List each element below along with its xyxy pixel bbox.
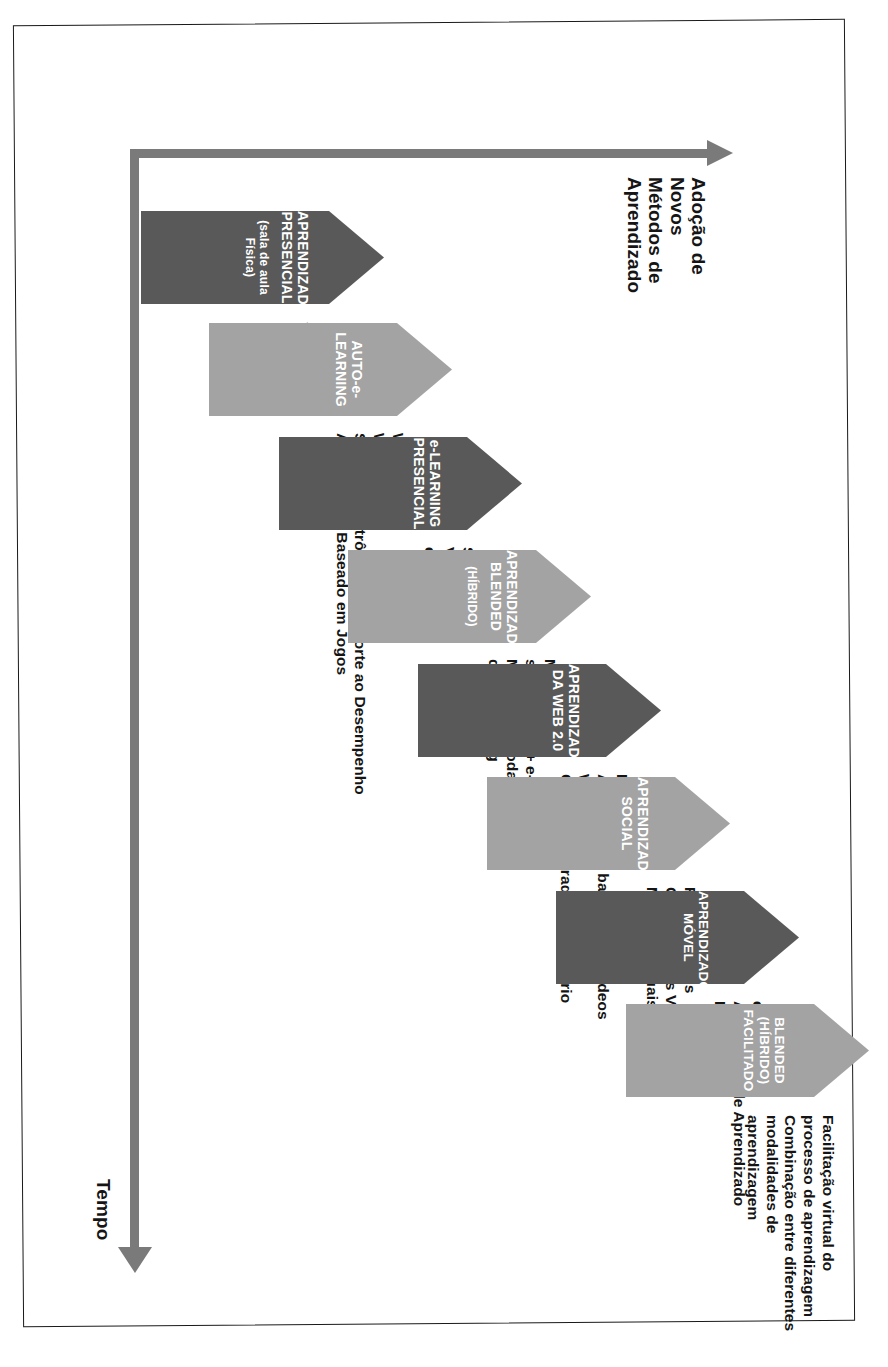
chart-stage: Tempo Adoção de Novos Métodos de Aprendi… xyxy=(29,29,859,1339)
stage-arrow-aprendizado-blended-hibrido[interactable]: APRENDIZADO BLENDED (HÍBRIDO) xyxy=(348,550,591,643)
stage-arrow-aprendizado-movel[interactable]: APRENDIZADO MÓVEL xyxy=(556,891,799,984)
x-axis-label: Tempo xyxy=(93,1179,114,1240)
arrow-shape xyxy=(279,437,522,530)
stage-arrow-auto-e-learning[interactable]: AUTO-e-LEARNING xyxy=(209,323,452,416)
arrow-shape xyxy=(556,891,799,984)
x-axis-line xyxy=(130,149,139,1254)
stage-title: APRENDIZADO BLENDED xyxy=(487,550,519,643)
stage-title: e-LEARNING PRESENCIAL xyxy=(410,437,442,530)
stage-title: APRENDIZADO MÓVEL xyxy=(680,891,711,984)
stage-title: BLENDED (HÍBRIDO) FACILITADO xyxy=(741,1004,787,1097)
y-axis-line xyxy=(130,149,709,158)
stage-title: APRENDIZADO SOCIAL xyxy=(618,777,650,870)
diagram-canvas: Tempo Adoção de Novos Métodos de Aprendi… xyxy=(0,0,888,1367)
rotated-wrapper: Tempo Adoção de Novos Métodos de Aprendi… xyxy=(0,0,888,1367)
stage-description-blended-hibrido-facilitado: Facilitação virtual do processo de apren… xyxy=(743,1115,837,1339)
stage-arrow-blended-hibrido-facilitado[interactable]: BLENDED (HÍBRIDO) FACILITADO xyxy=(626,1004,869,1097)
arrow-shape xyxy=(418,664,661,757)
stage-arrow-aprendizado-presencial[interactable]: APRENDIZADO PRESENCIAL (sala de aula Fís… xyxy=(141,211,384,304)
stage-arrow-aprendizado-social[interactable]: APRENDIZADO SOCIAL xyxy=(487,777,730,870)
stage-subtitle: (sala de aula Física) xyxy=(243,211,270,304)
stage-title: APRENDIZADO PRESENCIAL xyxy=(278,211,310,304)
stage-arrow-aprendizado-da-web-2-0[interactable]: APRENDIZADO DA WEB 2.0 xyxy=(418,664,661,757)
arrow-shape xyxy=(209,323,452,416)
arrow-shape xyxy=(487,777,730,870)
stage-arrow-e-learning-presencial[interactable]: e-LEARNING PRESENCIAL xyxy=(279,437,522,530)
y-axis-label: Adoção de Novos Métodos de Aprendizado xyxy=(624,177,709,293)
stage-title: APRENDIZADO DA WEB 2.0 xyxy=(549,664,581,757)
arrow-right-icon xyxy=(118,1247,152,1273)
stage-title: AUTO-e-LEARNING xyxy=(332,323,364,416)
stage-subtitle: (HÍBRIDO) xyxy=(464,550,478,643)
arrow-up-icon xyxy=(707,140,733,166)
